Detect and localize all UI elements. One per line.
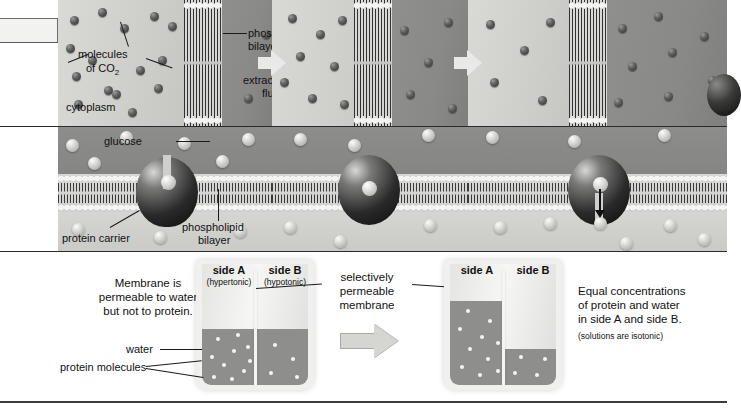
right-caption-line4: (solutions are isotonic) xyxy=(578,329,728,343)
right-caption-line1: Equal concentrations xyxy=(578,284,728,298)
leader-water xyxy=(160,349,202,350)
leader-glucose xyxy=(176,141,210,142)
label-of-co2: of CO2 xyxy=(86,62,119,79)
water-side-a-after xyxy=(450,301,503,385)
phospholipid-bilayer-2 xyxy=(354,0,392,126)
extracellular-fluid-region-3 xyxy=(607,0,727,126)
membrane-label-line1: selectively xyxy=(322,270,412,284)
facilitated-stage-2 xyxy=(272,127,468,251)
label-bilayer-line1: phospholipid xyxy=(182,221,244,233)
facilitated-stage-1: glucose protein carrier phospholipid bil… xyxy=(58,127,272,251)
diffusion-stage-3 xyxy=(468,0,727,126)
label-bilayer-line2: bilayer xyxy=(198,234,230,246)
label-extracellular-line2: fluid xyxy=(262,87,272,99)
right-caption-line2: of protein and water xyxy=(578,298,728,312)
leader-protein-1 xyxy=(146,360,202,367)
label-protein-carrier: protein carrier xyxy=(62,232,130,244)
label-bilayer-line1: phospholipid xyxy=(248,27,272,39)
label-side-b-before: side B xyxy=(258,264,312,276)
osmosis-right-caption: Equal concentrations of protein and wate… xyxy=(578,284,728,343)
progress-arrow-2 xyxy=(454,50,482,76)
label-protein-molecules: protein molecules xyxy=(60,361,146,373)
panel-simple-diffusion: molecules of CO2 cytoplasm phospholipid … xyxy=(58,0,727,126)
glucose-release-arrow xyxy=(599,189,601,211)
selectively-permeable-membrane-after xyxy=(502,270,505,385)
water-side-b-after xyxy=(503,349,556,385)
label-cytoplasm: cytoplasm xyxy=(66,101,116,113)
label-glucose: glucose xyxy=(104,135,142,147)
label-side-b-after: side B xyxy=(506,264,560,276)
protein-carrier xyxy=(136,157,198,227)
top-left-notch-box xyxy=(0,18,58,43)
bottom-rule xyxy=(0,401,727,403)
leader-bilayer xyxy=(218,189,219,221)
glucose-released xyxy=(594,217,607,230)
label-water: water xyxy=(126,343,153,355)
right-caption-line3: in side A and side B. xyxy=(578,312,728,326)
diffusion-stage-1: molecules of CO2 cytoplasm phospholipid … xyxy=(58,0,272,126)
panel-osmosis: Membrane is permeable to water but not t… xyxy=(0,252,727,401)
water-side-a xyxy=(202,329,255,385)
glucose-molecule-2 xyxy=(362,181,377,196)
beaker-glass-after xyxy=(450,264,556,385)
facilitated-stage-3 xyxy=(468,127,727,251)
label-side-a-after: side A xyxy=(450,264,504,276)
label-side-a-before: side A xyxy=(202,264,256,276)
phospholipid-bilayer-3 xyxy=(569,0,607,126)
panel-facilitated-diffusion: glucose protein carrier phospholipid bil… xyxy=(58,127,727,251)
membrane-label-line3: membrane xyxy=(322,298,412,312)
progress-arrow-1 xyxy=(258,50,286,76)
cropped-carrier-edge-shape xyxy=(707,74,741,116)
osmosis-process-arrow xyxy=(340,324,398,358)
label-selectively-permeable-membrane: selectively permeable membrane xyxy=(322,270,412,312)
membrane-label-line2: permeable xyxy=(322,284,412,298)
glucose-molecule xyxy=(161,175,176,190)
phospholipid-bilayer xyxy=(184,0,222,126)
label-molecules: molecules xyxy=(78,48,128,60)
beaker-after xyxy=(444,260,562,390)
leader-protein-2 xyxy=(146,368,203,378)
diffusion-stage-2 xyxy=(272,0,468,126)
leader-bilayer-top xyxy=(223,33,247,34)
label-side-a-tonicity: (hypertonic) xyxy=(198,277,260,287)
water-side-b xyxy=(255,329,308,385)
beaker-side-b-after xyxy=(503,264,556,385)
beaker-side-a-after xyxy=(450,264,503,385)
